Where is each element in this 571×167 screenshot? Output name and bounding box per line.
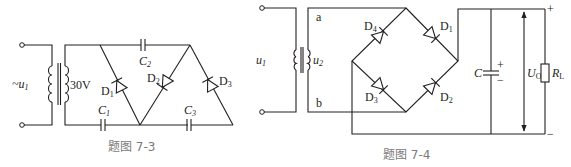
d1-label: D1	[440, 19, 453, 34]
secondary-voltage-label: 30V	[70, 78, 91, 92]
c2-label: C2	[139, 54, 151, 69]
input-terminal-top	[260, 6, 265, 11]
figure-caption: 题图 7-4	[383, 148, 430, 162]
input-terminal-bottom	[20, 123, 25, 128]
output-plus: +	[547, 2, 554, 16]
diode-d1	[111, 78, 127, 93]
input-terminal-bottom	[260, 110, 265, 115]
u2-label: u2	[313, 53, 323, 68]
transformer-secondary-coil	[65, 66, 69, 102]
figure-7-3: ~u1 30V C2 C1 C3 D1 D2	[12, 39, 233, 154]
node-a-label: a	[316, 10, 322, 24]
load-resistor	[541, 64, 549, 82]
u1-label: u1	[256, 53, 266, 68]
c-plus: +	[497, 58, 504, 72]
d1-label: D1	[101, 84, 114, 99]
c3-label: C3	[184, 103, 196, 118]
figure-7-4: u1 u2 a b D4 D1 D3 D2	[256, 2, 564, 162]
input-terminal-top	[20, 43, 25, 48]
node-b-label: b	[316, 96, 322, 110]
c-minus: −	[497, 73, 504, 87]
figure-caption: 题图 7-3	[108, 140, 155, 154]
diode-d3	[372, 78, 388, 94]
d4-label: D4	[364, 19, 377, 34]
transformer-primary-coil	[49, 66, 53, 102]
d2-label: D2	[147, 71, 160, 86]
d3-label: D3	[365, 90, 378, 105]
transformer-primary-coil	[294, 50, 296, 70]
transformer-secondary-coil	[308, 50, 310, 70]
c-label: C	[474, 66, 483, 80]
c1-label: C1	[98, 103, 110, 118]
rl-label: RL	[551, 66, 564, 81]
input-voltage-label: ~u1	[12, 77, 29, 92]
d3-label: D3	[219, 74, 232, 89]
uo-label: UO	[527, 66, 542, 81]
diode-d3	[202, 77, 218, 92]
d2-label: D2	[440, 90, 453, 105]
output-minus: −	[547, 127, 554, 141]
